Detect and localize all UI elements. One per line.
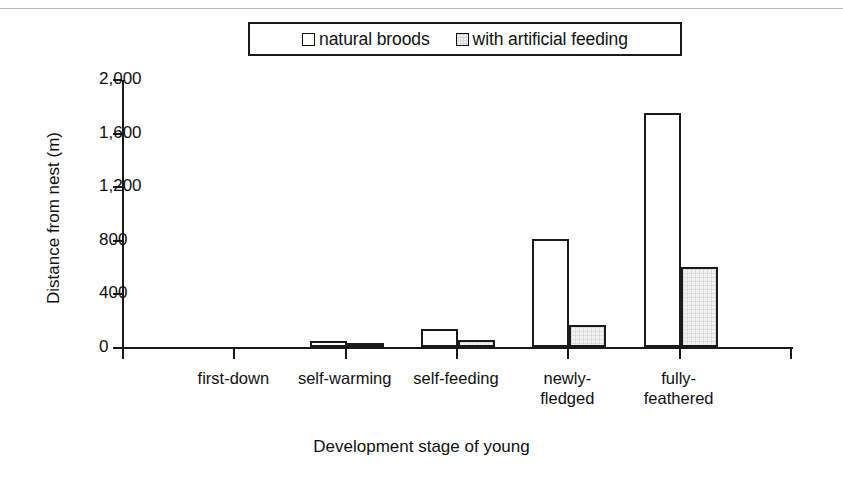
bar-artificial-feeding <box>347 343 384 347</box>
x-axis-tick <box>233 349 235 359</box>
x-axis-tick <box>567 349 569 359</box>
legend-item-artificial-feeding: with artificial feeding <box>456 29 628 50</box>
y-axis-tick-label: 0 <box>99 337 108 357</box>
plot-area: 04008001,2001,6002,000 first-downself-wa… <box>122 80 792 348</box>
y-axis-tick-label: 800 <box>99 230 108 250</box>
legend-swatch-artificial-feeding <box>456 33 469 46</box>
bar-artificial-feeding <box>458 340 495 347</box>
y-axis-tick-label: 1,200 <box>99 176 108 196</box>
bar-natural-broods <box>421 329 458 347</box>
x-axis-tick <box>345 349 347 359</box>
bar-natural-broods <box>310 341 347 347</box>
x-axis-tick <box>456 349 458 359</box>
y-axis-tick-label: 1,600 <box>99 123 108 143</box>
x-axis-tick <box>679 349 681 359</box>
x-axis-title: Development stage of young <box>0 437 843 457</box>
bar-artificial-feeding <box>569 325 606 347</box>
y-axis-title: Distance from nest (m) <box>44 78 64 358</box>
legend-item-natural-broods: natural broods <box>302 29 429 50</box>
legend-swatch-natural-broods <box>302 33 315 46</box>
y-axis-line <box>122 80 124 349</box>
bar-chart-figure: natural broods with artificial feeding D… <box>0 0 843 484</box>
x-axis-category-label-line: fully- <box>609 368 749 388</box>
y-axis-tick-label: 400 <box>99 283 108 303</box>
legend-label-artificial-feeding: with artificial feeding <box>473 29 628 50</box>
x-axis-category-label: fully-feathered <box>609 368 749 408</box>
x-axis-category-label-line: feathered <box>609 388 749 408</box>
bar-artificial-feeding <box>681 267 718 347</box>
bar-natural-broods <box>644 113 681 347</box>
y-axis-tick <box>113 347 122 349</box>
x-axis-tick <box>122 349 124 359</box>
y-axis-tick-label: 2,000 <box>99 69 108 89</box>
bar-natural-broods <box>532 239 569 347</box>
x-axis-tick <box>790 349 792 359</box>
chart-legend: natural broods with artificial feeding <box>248 22 682 56</box>
top-divider-rule <box>0 8 843 9</box>
legend-label-natural-broods: natural broods <box>319 29 429 50</box>
